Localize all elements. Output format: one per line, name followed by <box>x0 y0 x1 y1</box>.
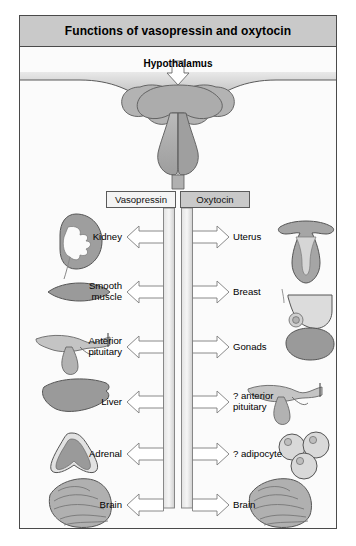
label-left-anterior-pituitary: Anterior pituitary <box>48 335 122 357</box>
label-right-anterior-pituitary-line1: ? anterior <box>233 390 317 401</box>
label-left-smooth-muscle: Smooth muscle <box>48 280 122 302</box>
arrow-row-3 <box>127 336 229 358</box>
arrow-row-4 <box>127 391 229 413</box>
label-left-smooth-muscle-line1: Smooth <box>48 280 122 291</box>
label-right-adipocyte: ? adipocyte <box>233 448 317 459</box>
signal-tracks-group <box>164 208 193 508</box>
label-right-breast: Breast <box>233 286 317 297</box>
label-right-anterior-pituitary-line2: pituitary <box>233 401 317 412</box>
label-left-anterior-pituitary-line2: pituitary <box>48 346 122 357</box>
column-header-oxytocin[interactable]: Oxytocin <box>180 191 250 208</box>
column-header-vasopressin-label: Vasopressin <box>115 194 167 205</box>
arrow-row-6 <box>127 494 229 516</box>
label-left-anterior-pituitary-line1: Anterior <box>48 335 122 346</box>
diagram-canvas: Hypothalamus Vasopressin Oxytocin Kidney… <box>20 47 336 528</box>
label-right-brain: Brain <box>233 499 317 510</box>
breast-icon <box>288 295 332 328</box>
label-right-gonads: Gonads <box>233 341 317 352</box>
kidney-icon <box>60 214 102 279</box>
label-right-anterior-pituitary: ? anterior pituitary <box>233 390 317 412</box>
column-header-oxytocin-label: Oxytocin <box>196 194 233 205</box>
column-header-vasopressin[interactable]: Vasopressin <box>106 191 176 208</box>
hypothalamus-label: Hypothalamus <box>20 58 336 69</box>
label-left-kidney: Kidney <box>48 231 122 242</box>
page-title: Functions of vasopressin and oxytocin <box>65 24 291 38</box>
arrow-row-2 <box>127 281 229 303</box>
label-left-smooth-muscle-line2: muscle <box>48 291 122 302</box>
label-left-brain: Brain <box>48 499 122 510</box>
figure-frame: Functions of vasopressin and oxytocin <box>19 15 337 529</box>
diagram-figure: Functions of vasopressin and oxytocin <box>0 0 356 546</box>
label-right-uterus: Uterus <box>233 231 317 242</box>
label-left-adrenal: Adrenal <box>48 448 122 459</box>
figure-title-bar: Functions of vasopressin and oxytocin <box>20 16 336 47</box>
arrow-row-1 <box>127 226 229 248</box>
arrow-row-5 <box>127 443 229 465</box>
label-left-liver: Liver <box>48 396 122 407</box>
